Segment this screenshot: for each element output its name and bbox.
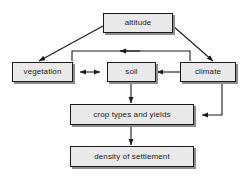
node-density-of-settlement-label: density of settlement (94, 152, 169, 160)
node-density-of-settlement[interactable]: density of settlement (70, 146, 194, 167)
diagram-canvas: altitude vegetation soil climate crop ty… (0, 0, 251, 180)
node-climate-label: climate (195, 68, 221, 76)
edge-climate-to-crop-types (202, 83, 222, 115)
node-vegetation-label: vegetation (24, 68, 62, 76)
edge-altitude-to-climate (173, 26, 213, 61)
node-altitude[interactable]: altitude (103, 13, 173, 33)
edge-climate-to-vegetation-top-loop (72, 51, 190, 61)
node-vegetation[interactable]: vegetation (12, 62, 73, 82)
node-crop-types-and-yields[interactable]: crop types and yields (70, 104, 194, 125)
node-altitude-label: altitude (125, 19, 152, 27)
node-climate[interactable]: climate (180, 62, 236, 82)
node-crop-types-and-yields-label: crop types and yields (93, 110, 170, 118)
node-soil[interactable]: soil (107, 62, 156, 82)
edge-altitude-to-vegetation (39, 26, 103, 61)
node-soil-label: soil (125, 68, 137, 76)
